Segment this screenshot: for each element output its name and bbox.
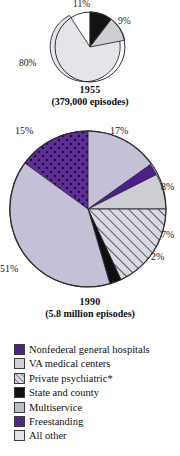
figure-root: 11% 9% 80% 1955 (379,000 episodes) — [0, 0, 180, 456]
pie-1955-label-80: 80% — [19, 59, 36, 69]
legend: Nonfederal general hospitals VA medical … — [14, 343, 180, 444]
pie-1990-canvas: 17% 8% 7% 2% 51% 15% — [9, 130, 167, 288]
legend-item-state-and-county: State and county — [14, 386, 180, 400]
legend-label-multiservice: Multiservice — [29, 401, 82, 414]
pie-1955-label-9: 9% — [118, 17, 131, 27]
legend-swatch-dotted-purple — [14, 416, 25, 427]
legend-item-va-medical-centers: VA medical centers — [14, 357, 180, 371]
legend-item-multiservice: Multiservice — [14, 401, 180, 415]
legend-label-state-and-county: State and county — [29, 386, 99, 399]
legend-swatch-diagonal-hatch — [14, 373, 25, 384]
legend-item-nonfederal-general-hospitals: Nonfederal general hospitals — [14, 343, 180, 357]
legend-label-all-other: All other — [29, 429, 67, 442]
legend-item-private-psychiatric: Private psychiatric* — [14, 372, 180, 386]
legend-swatch-solid-light-gray — [14, 358, 25, 369]
caption-1990: 1990 (5.8 million episodes) — [0, 296, 180, 320]
legend-label-freestanding: Freestanding — [29, 415, 83, 428]
pie-1990-label-7: 7% — [161, 230, 174, 240]
legend-swatch-solid-dark-purple — [14, 344, 25, 355]
pie-1990-label-15: 15% — [15, 126, 33, 136]
pie-1955-svg — [54, 11, 126, 83]
legend-swatch-solid-gray — [14, 402, 25, 413]
legend-item-freestanding: Freestanding — [14, 415, 180, 429]
legend-swatch-solid-black — [14, 387, 25, 398]
legend-swatch-solid-pale-gray — [14, 430, 25, 441]
dots-swatch-icon — [15, 417, 24, 426]
legend-label-nonfederal-general-hospitals: Nonfederal general hospitals — [29, 343, 150, 356]
hatch-swatch-icon — [15, 374, 24, 383]
caption-1990-subtitle: (5.8 million episodes) — [0, 308, 180, 320]
pie-1990-label-8: 8% — [161, 182, 174, 192]
legend-label-va-medical-centers: VA medical centers — [29, 357, 110, 370]
pie-1990-label-2: 2% — [151, 252, 164, 262]
legend-item-all-other: All other — [14, 429, 180, 443]
pie-1955-canvas: 11% 9% 80% — [54, 11, 126, 83]
legend-label-private-psychiatric: Private psychiatric* — [29, 372, 113, 385]
pie-1990-label-51: 51% — [0, 264, 18, 274]
caption-1955-year: 1955 — [0, 84, 180, 96]
caption-1990-year: 1990 — [0, 296, 180, 308]
pie-1955-label-11: 11% — [73, 0, 90, 10]
pie-1990-svg — [9, 130, 167, 288]
caption-1955-subtitle: (379,000 episodes) — [0, 96, 180, 108]
caption-1955: 1955 (379,000 episodes) — [0, 84, 180, 108]
pie-1990-label-17: 17% — [110, 126, 128, 136]
